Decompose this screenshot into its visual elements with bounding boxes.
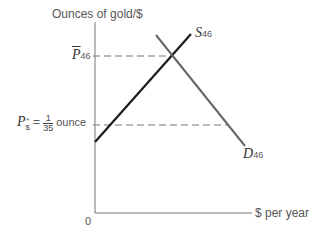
- pstar-label: P*$ = 135 ounce: [17, 114, 86, 133]
- x-axis-label: $ per year: [255, 206, 309, 220]
- pstar-equals: =: [33, 115, 40, 129]
- fraction-denominator: 35: [43, 124, 53, 133]
- pstar-unit: ounce: [56, 116, 86, 128]
- p46-symbol: P: [72, 47, 81, 62]
- d46-label: D46: [243, 146, 263, 162]
- d-subscript: 46: [253, 150, 263, 160]
- pstar-subscript: $: [26, 124, 30, 131]
- demand-curve-d46: [156, 35, 245, 146]
- y-axis-label: Ounces of gold/$: [52, 7, 143, 21]
- p46-label: P46: [72, 47, 91, 63]
- origin-label: 0: [85, 215, 91, 227]
- s-subscript: 46: [202, 29, 212, 39]
- p46-subscript: 46: [81, 51, 91, 61]
- supply-curve-s46: [95, 34, 191, 142]
- pstar-symbol: P: [17, 114, 26, 129]
- pstar-fraction: 135: [43, 114, 53, 133]
- s-symbol: S: [195, 25, 202, 40]
- d-symbol: D: [243, 146, 253, 161]
- s46-label: S46: [195, 25, 212, 41]
